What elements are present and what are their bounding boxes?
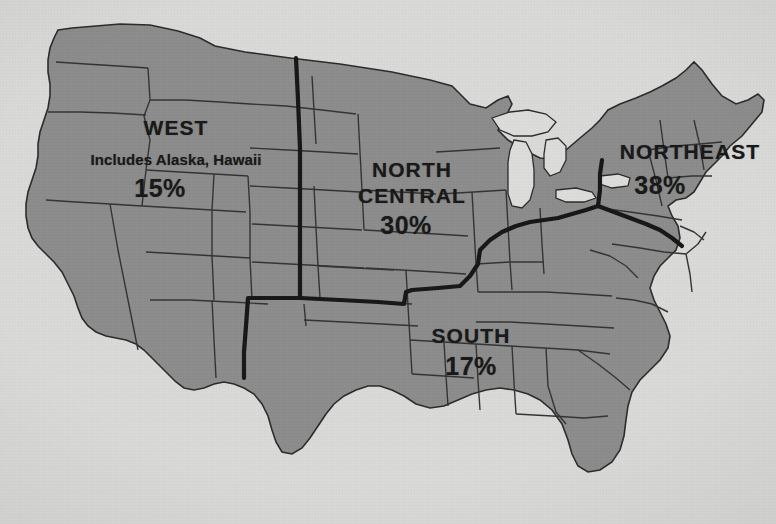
region-note-west: Includes Alaska, Hawaii	[91, 151, 262, 168]
lake-michigan	[508, 140, 534, 208]
region-label-northeast: NORTHEAST	[620, 140, 761, 164]
region-percent-north-central: 30%	[380, 211, 432, 240]
region-label-north-central-line1: NORTH	[372, 158, 452, 182]
us-landmass	[26, 24, 764, 472]
region-percent-south: 17%	[445, 352, 497, 381]
cropped-title-remnant: ····	[168, 0, 338, 6]
map-screenshot: ····	[0, 0, 776, 524]
region-label-north-central-line2: CENTRAL	[358, 184, 466, 208]
region-percent-northeast: 38%	[634, 171, 686, 200]
region-label-west: WEST	[143, 116, 208, 140]
region-percent-west: 15%	[134, 174, 186, 203]
region-label-south: SOUTH	[432, 324, 511, 348]
lake-ontario	[600, 174, 630, 188]
us-regional-map	[0, 0, 776, 524]
